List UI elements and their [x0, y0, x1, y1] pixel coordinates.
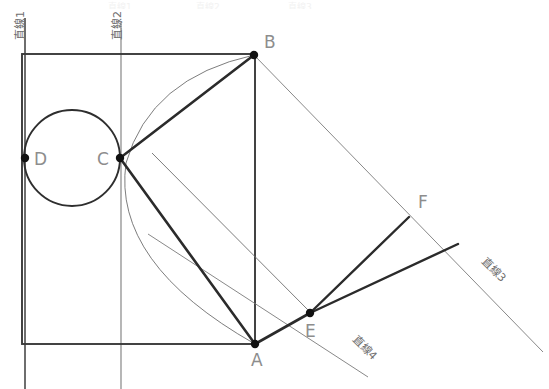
ray-e-right[interactable] [310, 244, 458, 313]
line-label-3: 直線3 [479, 254, 509, 284]
point-label-D: D [34, 149, 47, 169]
point-E-dot[interactable] [306, 309, 314, 317]
figure-canvas: 直線1 直線2 直線3 A B [0, 0, 549, 389]
line-3-path[interactable] [254, 55, 543, 352]
geometry-svg: A B C D E F 直線1 直線2 直線3 直線4 [0, 0, 549, 389]
line-label-2: 直線2 [110, 11, 124, 40]
cropped-header-text: 直線1 直線2 直線3 [0, 0, 549, 9]
point-label-F: F [418, 192, 428, 212]
point-label-C: C [97, 149, 109, 169]
arc-b-c-a[interactable] [125, 55, 255, 344]
ghost-header-item-0: 直線1 [108, 0, 132, 9]
point-C-dot[interactable] [116, 154, 124, 162]
point-label-B: B [264, 32, 276, 52]
point-B-dot[interactable] [250, 51, 258, 59]
line-label-4: 直線4 [350, 332, 380, 362]
line-label-1: 直線1 [13, 11, 27, 40]
point-label-E: E [305, 321, 316, 341]
polyline-b-c-a-e[interactable] [120, 55, 310, 344]
ghost-header-item-1: 直線2 [196, 0, 220, 9]
point-label-A: A [251, 350, 263, 370]
rectangle-frame[interactable] [22, 54, 255, 344]
point-A-dot[interactable] [251, 340, 259, 348]
segment-e-f[interactable] [310, 217, 409, 313]
point-D-dot[interactable] [21, 154, 29, 162]
ghost-header-item-2: 直線3 [288, 0, 312, 9]
